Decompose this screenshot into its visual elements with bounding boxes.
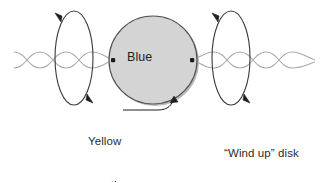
diagram-canvas: Blue Yellow on other side “Wind up” disk… [0,0,329,182]
left-loop-ellipse [55,11,93,105]
windup-callout: “Wind up” disk and pull strings, spinnin… [224,117,311,182]
disk-label: Blue [127,50,152,65]
left-hand-loop [55,11,93,105]
left-loop-arrow-top [55,13,62,22]
right-loop-ellipse [212,11,250,105]
right-hand-loop [212,11,250,105]
yellow-callout-line-2: on other [88,178,131,183]
right-loop-arrow-top [212,13,219,22]
windup-callout-line-1: “Wind up” disk [224,146,311,161]
string-left-strand-a [14,52,113,68]
string-left-strand-b [14,52,113,68]
disk-body [109,16,197,104]
string-right-strand-b [192,52,315,68]
disk-hole-left [111,58,115,62]
yellow-callout-line-1: Yellow [88,134,131,149]
yellow-callout: Yellow on other side [88,105,131,182]
left-loop-arrow-bottom [86,94,93,103]
disk-hole-right [190,58,194,62]
right-loop-arrow-bottom [243,94,250,103]
